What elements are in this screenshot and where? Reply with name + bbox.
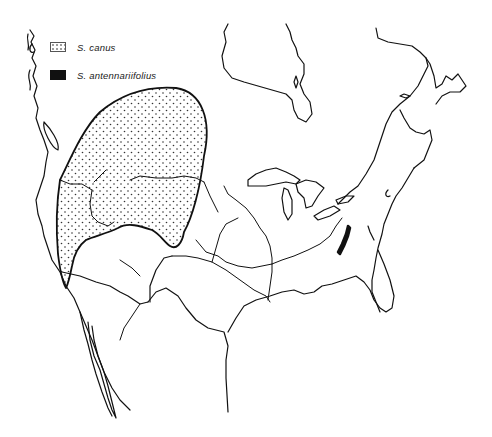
- legend-label: S. antennariifolius: [77, 70, 156, 81]
- hudson-bay: [222, 24, 312, 122]
- atlantic-coastline: [338, 28, 466, 312]
- legend-item-s-canus: S. canus: [50, 40, 156, 54]
- legend-label: S. canus: [77, 42, 116, 53]
- great-lakes: [248, 168, 354, 220]
- s-canus-range: [57, 88, 207, 288]
- s-antennariifolius-range: [338, 226, 350, 254]
- solid-swatch-icon: [50, 70, 66, 80]
- legend-item-s-antennariifolius: S. antennariifolius: [50, 68, 156, 82]
- stipple-swatch-icon: [50, 42, 66, 52]
- legend: S. canus S. antennariifolius: [50, 40, 156, 96]
